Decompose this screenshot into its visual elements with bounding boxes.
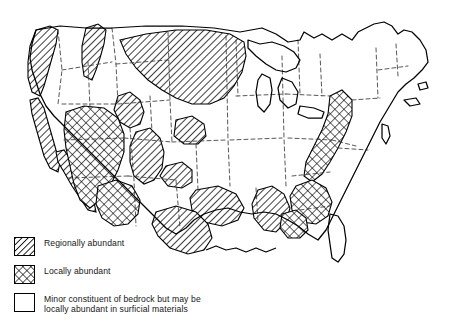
legend-label-minor-constituent: Minor constituent of bedrock but may be … [44,292,201,315]
legend-item-regionally-abundant: Regionally abundant [14,236,244,256]
cross-hatch-icon [15,266,34,283]
blank-square-icon [15,294,34,311]
legend-swatch-regionally-abundant [14,237,35,256]
map-legend: Regionally abundant Locally abundant [14,236,244,315]
legend-swatch-locally-abundant [14,265,35,284]
legend-label-locally-abundant: Locally abundant [44,264,111,276]
legend-item-locally-abundant: Locally abundant [14,264,244,284]
legend-item-minor-constituent: Minor constituent of bedrock but may be … [14,292,244,315]
legend-label-regionally-abundant: Regionally abundant [44,236,124,248]
diagonal-hatch-icon [15,238,34,255]
legend-swatch-minor-constituent [14,293,35,312]
